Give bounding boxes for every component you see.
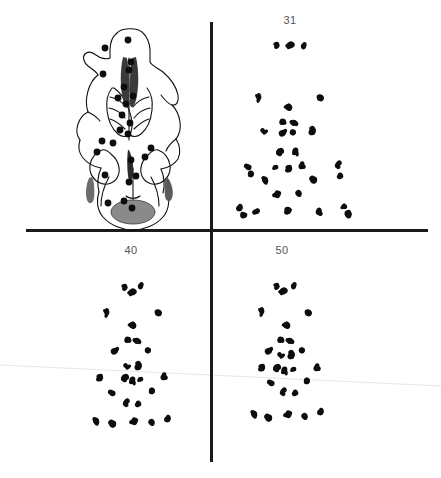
- skull-landmark-dot: [110, 140, 117, 147]
- skull-landmark-dot: [148, 145, 155, 152]
- skull-landmark-dot: [100, 71, 107, 78]
- landmark-cloud-blob: [155, 309, 161, 314]
- figure-root: 31 40 50: [0, 0, 441, 478]
- skull-landmark-dot: [105, 200, 112, 207]
- bulla-shadow-left-shape: [86, 177, 94, 203]
- skull-landmark-dot: [102, 45, 109, 52]
- foramen-magnum-shape: [111, 200, 155, 224]
- skull-landmark-dot: [117, 127, 124, 134]
- skull-landmark-dot: [128, 59, 135, 66]
- landmark-cloud-blob: [303, 377, 310, 385]
- basisphenoid-shadow-shape: [127, 150, 133, 180]
- landmark-cloud-blob: [317, 94, 323, 99]
- skull-landmark-dot: [133, 173, 140, 180]
- landmark-cloud-blob: [148, 387, 155, 395]
- palatal-fissure-left-shape: [121, 57, 130, 107]
- bulla-shadow-right-shape: [165, 177, 173, 201]
- skull-landmark-dot: [99, 138, 106, 145]
- scatter-points-50: [250, 282, 325, 423]
- skull-landmark-dot: [115, 95, 122, 102]
- skull-landmark-dot: [126, 67, 133, 74]
- landmark-cloud-blob: [247, 170, 254, 178]
- skull-landmark-dot: [123, 101, 130, 108]
- skull-landmark-dot: [127, 120, 134, 127]
- scatter-points-40: [92, 282, 172, 429]
- skull-landmark-dot: [142, 154, 149, 161]
- landmark-cloud-blob: [305, 309, 311, 314]
- skull-landmark-dot: [119, 112, 126, 119]
- skull-landmark-dot: [121, 84, 128, 91]
- skull-drawing-layer: [0, 0, 441, 478]
- skull-landmark-dot: [130, 93, 137, 100]
- scatter-points-31: [236, 40, 353, 219]
- skull-landmark-dot: [125, 131, 132, 138]
- skull-landmark-dot: [129, 205, 136, 212]
- skull-landmark-dot: [128, 157, 135, 164]
- skull-landmark-dot: [94, 149, 101, 156]
- skull-landmark-dot: [125, 37, 132, 44]
- skull-landmark-dot: [126, 179, 133, 186]
- skull-landmark-dot: [102, 172, 109, 179]
- skull-landmark-dot: [121, 198, 128, 205]
